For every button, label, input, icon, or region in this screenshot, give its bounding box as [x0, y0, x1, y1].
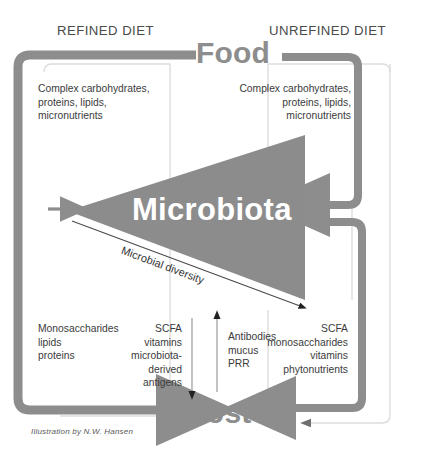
text-line: monosaccharides: [250, 336, 348, 350]
text-line: SCFA: [250, 322, 348, 336]
text-line: micronutrients: [226, 109, 351, 123]
text-line: SCFA: [118, 322, 182, 336]
text-line: proteins, lipids,: [38, 96, 163, 110]
text-line: phytonutrients: [250, 363, 348, 377]
text-line: Complex carbohydrates,: [226, 82, 351, 96]
microbiota-label: Microbiota: [132, 192, 292, 228]
text-line: proteins, lipids,: [226, 96, 351, 110]
text-line: microbiota-: [118, 349, 182, 363]
microbial-diversity-arrow: [72, 221, 300, 306]
microbial-diversity-label: Microbial diversity: [120, 244, 206, 286]
refined-diet-header: REFINED DIET: [57, 22, 154, 39]
left-top-nutrients-block: Complex carbohydrates, proteins, lipids,…: [38, 82, 163, 123]
text-line: derived: [118, 363, 182, 377]
host-title: Host: [184, 396, 251, 430]
food-title: Food: [196, 36, 270, 70]
right-bottom-metabolites-block: SCFA monosaccharides vitamins phytonutri…: [250, 322, 348, 376]
text-line: antigens: [118, 376, 182, 390]
right-flow-arrow-top: [282, 57, 358, 205]
text-line: micronutrients: [38, 109, 163, 123]
unrefined-diet-header: UNREFINED DIET: [269, 22, 386, 39]
center-left-microbial-products-block: SCFA vitamins microbiota- derived antige…: [118, 322, 182, 390]
right-top-nutrients-block: Complex carbohydrates, proteins, lipids,…: [226, 82, 351, 123]
text-line: Complex carbohydrates,: [38, 82, 163, 96]
diagram-canvas: REFINED DIET UNREFINED DIET Food Host Mi…: [0, 0, 430, 465]
right-flow-arrow-bottom: [288, 222, 362, 408]
text-line: vitamins: [118, 336, 182, 350]
text-line: vitamins: [250, 349, 348, 363]
illustration-credit: Illustration by N.W. Hansen: [31, 427, 133, 436]
